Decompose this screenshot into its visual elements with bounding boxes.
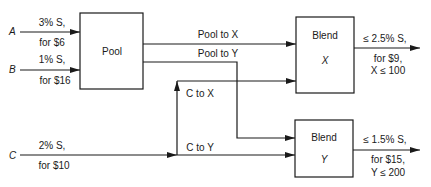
blend-y-product: Y	[321, 154, 328, 165]
blend-x-label: Blend	[312, 30, 338, 41]
blend-y-spec: ≤ 1.5% S,	[363, 134, 406, 145]
input-b-sulfur: 1% S,	[39, 54, 66, 65]
pool-to-y-arrow	[143, 62, 295, 138]
blend-x-price: for $9,	[374, 53, 402, 64]
blend-y-box	[295, 120, 353, 177]
c-to-y-label: C to Y	[186, 142, 214, 153]
input-a-label: A	[9, 26, 16, 37]
blend-x-spec: ≤ 2.5% S,	[363, 33, 406, 44]
blend-y-label: Blend	[311, 132, 337, 143]
blend-y-limit: Y ≤ 200	[371, 167, 405, 178]
pool-to-x-label: Pool to X	[198, 29, 239, 40]
blend-y-price: for $15,	[371, 154, 405, 165]
input-c-sulfur: 2% S,	[39, 140, 66, 151]
input-a-cost: for $6	[39, 37, 65, 48]
blend-x-product: X	[322, 55, 329, 66]
pool-to-y-label: Pool to Y	[198, 48, 238, 59]
pool-label: Pool	[102, 46, 122, 57]
input-c-label: C	[9, 150, 16, 161]
c-to-x-label: C to X	[186, 88, 214, 99]
blend-x-limit: X ≤ 100	[371, 65, 405, 76]
input-c-cost: for $10	[38, 160, 69, 171]
input-a-sulfur: 3% S,	[39, 17, 66, 28]
input-b-label: B	[9, 64, 16, 75]
input-b-cost: for $16	[39, 75, 70, 86]
